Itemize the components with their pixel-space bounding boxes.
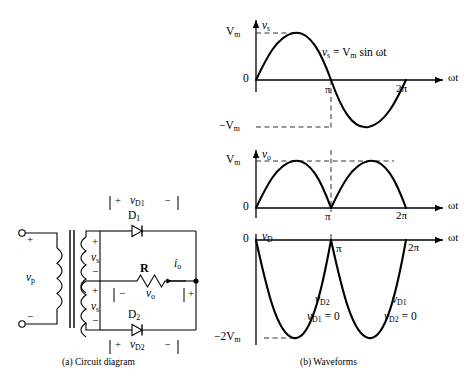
resistor-zigzag — [137, 275, 165, 287]
circuit-diagram — [19, 226, 199, 338]
plot1-y-axis-label: vs — [262, 20, 270, 33]
secondary-top-voltage: vs — [91, 252, 99, 265]
secondary-bottom-plus: + — [92, 285, 98, 296]
plot2-x-axis-label: ωt — [448, 200, 458, 211]
plot-source-voltage — [256, 20, 443, 131]
plot1-xtick-pi: π — [325, 84, 331, 95]
plot-output-voltage — [256, 150, 443, 218]
plot1-ytick-negvm: −Vm — [219, 120, 240, 133]
plot3-x-axis-label: ωt — [448, 232, 458, 243]
vd2-voltage-label: vD2 — [130, 339, 145, 352]
primary-terminal-top — [19, 230, 25, 236]
figure-full-wave-rectifier: + − vp + vs − + vs − + vD1 − D1 + vD2 − … — [0, 0, 475, 388]
plot2-ytick-vm: Vm — [226, 154, 240, 167]
primary-coil — [57, 248, 62, 309]
plot2-hump-2 — [331, 161, 406, 208]
plot1-xtick-2pi: 2π — [396, 83, 407, 94]
diode1-name: D1 — [128, 210, 140, 223]
annotation-vd2-left: vD2 — [315, 294, 330, 307]
source-equation: vs = Vm sin ωt — [322, 47, 387, 60]
primary-terminal-bottom — [19, 321, 25, 327]
primary-voltage-label: vp — [26, 272, 35, 285]
plot2-hump-1 — [256, 161, 331, 208]
vd2-plus-sign: + — [115, 340, 121, 351]
resistor-label: R — [140, 262, 149, 274]
plot1-ytick-vm: Vm — [226, 26, 240, 39]
caption-waveforms: (b) Waveforms — [300, 358, 357, 368]
d1-triangle — [132, 226, 142, 237]
primary-minus-label: − — [27, 311, 33, 322]
figure-svg — [0, 0, 475, 388]
secondary-coil-bottom — [81, 281, 86, 337]
caption-circuit-diagram: (a) Circuit diagram — [62, 358, 135, 368]
plot2-xtick-2pi: 2π — [396, 210, 407, 221]
plot3-ytick-neg2vm: −2Vm — [214, 331, 241, 344]
plot1-ytick-zero: 0 — [243, 73, 249, 85]
annotation-vd1-zero-left: vD1 = 0 — [307, 311, 340, 324]
plot3-xtick-pi: π — [336, 243, 342, 254]
primary-plus-label: + — [27, 234, 33, 245]
plot3-ytick-zero: 0 — [243, 233, 249, 245]
annotation-vd1-right: vD1 — [392, 294, 407, 307]
secondary-top-minus: − — [92, 266, 98, 277]
output-minus-sign: − — [119, 288, 125, 299]
annotation-vd2-zero-right: vD2 = 0 — [384, 311, 417, 324]
plot1-x-axis-label: ωt — [448, 72, 458, 83]
vd1-plus-sign: + — [115, 196, 121, 207]
output-voltage-label: vo — [146, 288, 155, 301]
diode2-name: D2 — [128, 309, 140, 322]
vd2-minus-sign: − — [165, 340, 171, 351]
secondary-top-plus: + — [92, 236, 98, 247]
output-node-dot — [193, 278, 198, 283]
plot2-xtick-pi: π — [325, 211, 331, 222]
vd1-minus-sign: − — [165, 196, 171, 207]
secondary-bottom-minus: − — [92, 315, 98, 326]
d2-triangle — [132, 325, 142, 336]
plot3-xtick-2pi: 2π — [408, 242, 419, 253]
vd1-voltage-label: vD1 — [130, 195, 145, 208]
output-current-label: io — [174, 258, 181, 271]
plot3-y-axis-label: vD — [262, 231, 273, 244]
plot2-ytick-zero: 0 — [243, 201, 249, 213]
output-plus-sign: + — [188, 288, 194, 299]
plot2-y-axis-label: vo — [262, 149, 271, 162]
secondary-bottom-voltage: vs — [91, 301, 99, 314]
